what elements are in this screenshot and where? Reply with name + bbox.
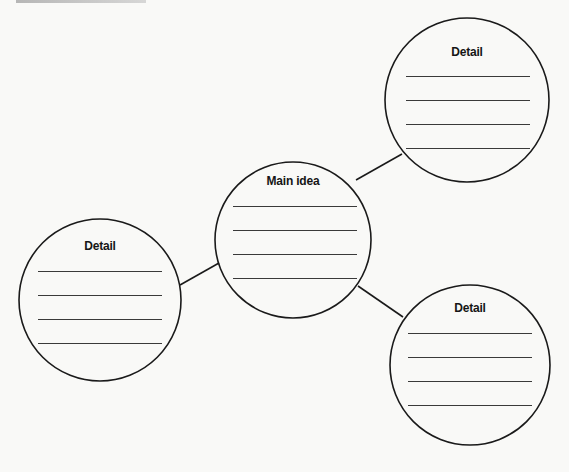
detail-top-right-writing-line xyxy=(406,148,530,149)
detail-top-right-writing-line xyxy=(406,100,530,101)
main-writing-line xyxy=(233,278,357,279)
detail-left-writing-line xyxy=(38,271,162,272)
detail-left-writing-line xyxy=(38,319,162,320)
detail-left-label: Detail xyxy=(84,239,115,253)
detail-bottom-right-writing-line xyxy=(408,381,532,382)
detail-bottom-right-writing-line xyxy=(408,333,532,334)
main-writing-line xyxy=(233,206,357,207)
main-writing-line xyxy=(233,254,357,255)
detail-bottom-right-writing-line xyxy=(408,405,532,406)
idea-web-diagram xyxy=(0,0,569,472)
connector-detail-left xyxy=(180,263,219,285)
main-idea-label: Main idea xyxy=(267,174,320,188)
connector-detail-top-right xyxy=(356,154,402,180)
main-writing-line xyxy=(233,230,357,231)
detail-left-writing-line xyxy=(38,295,162,296)
detail-bottom-right-writing-line xyxy=(408,357,532,358)
connector-detail-bottom-right xyxy=(358,286,403,317)
detail-top-right-writing-line xyxy=(406,124,530,125)
detail-left-writing-line xyxy=(38,343,162,344)
detail-top-right-writing-line xyxy=(406,76,530,77)
detail-bottom-right-label: Detail xyxy=(454,301,485,315)
detail-top-right-label: Detail xyxy=(451,45,482,59)
